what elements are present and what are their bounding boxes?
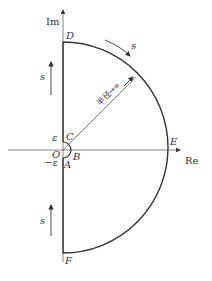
real-axis-label: Re bbox=[185, 155, 199, 166]
infinite-arc bbox=[63, 42, 168, 253]
point-d-label: D bbox=[65, 30, 74, 41]
radius-line bbox=[63, 77, 136, 150]
point-a-label: A bbox=[63, 159, 71, 170]
upper-direction-label: s bbox=[40, 71, 45, 82]
epsilon-neg-label: −ε bbox=[44, 157, 58, 168]
point-c-label: C bbox=[66, 131, 74, 142]
arc-direction-arrow bbox=[105, 40, 130, 56]
point-e-label: E bbox=[169, 136, 178, 147]
point-f-label: F bbox=[64, 255, 73, 266]
arc-direction-label: s bbox=[131, 40, 136, 51]
epsilon-pos-label: ε bbox=[52, 132, 57, 143]
radius-label: 半径→∞ bbox=[94, 80, 122, 108]
lower-direction-label: s bbox=[40, 215, 45, 226]
point-b-label: B bbox=[72, 151, 80, 162]
nyquist-contour-diagram: Im Re D C O B A E F ε −ε s s s 半径→∞ bbox=[0, 0, 212, 281]
imag-axis-label: Im bbox=[46, 16, 60, 27]
